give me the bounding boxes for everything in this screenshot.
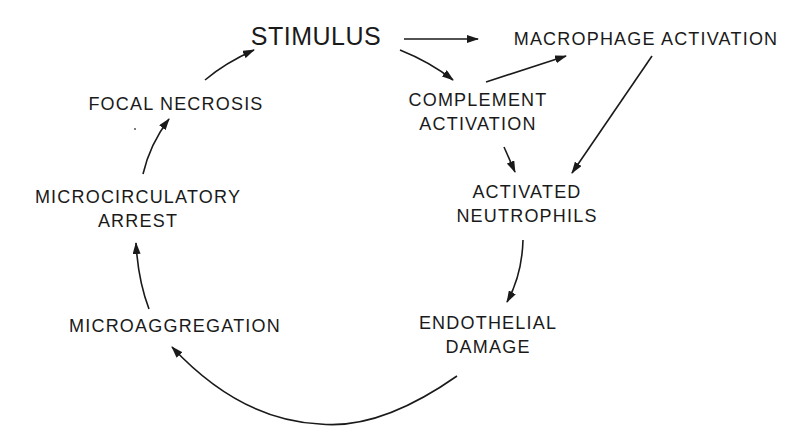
arrow-macrophage-to-neutrophils	[572, 56, 652, 173]
node-endothelial-damage: ENDOTHELIAL DAMAGE	[419, 311, 557, 359]
node-microaggregation-label: MICROAGGREGATION	[69, 314, 281, 338]
node-stimulus-label: STIMULUS	[251, 24, 381, 48]
node-macrophage-activation: MACROPHAGE ACTIVATION	[514, 27, 779, 51]
node-neutrophils-label-line2: NEUTROPHILS	[456, 204, 597, 228]
node-necrosis-label: FOCAL NECROSIS	[88, 92, 263, 116]
node-stimulus: STIMULUS	[251, 24, 381, 48]
arrow-arrest-to-necrosis	[143, 119, 169, 174]
node-microcirculatory-label-line2: ARREST	[35, 209, 241, 233]
node-endothelial-label-line2: DAMAGE	[419, 335, 557, 359]
arrow-complement-to-macrophage	[486, 56, 566, 82]
node-focal-necrosis: FOCAL NECROSIS	[88, 92, 263, 116]
arrow-stimulus-to-complement	[400, 50, 453, 80]
node-microaggregation: MICROAGGREGATION	[69, 314, 281, 338]
arrow-neutrophils-to-endothelial	[507, 240, 523, 302]
node-complement-label-line2: ACTIVATION	[408, 112, 547, 136]
node-activated-neutrophils: ACTIVATED NEUTROPHILS	[456, 180, 597, 228]
node-microcirculatory-arrest: MICROCIRCULATORY ARREST	[35, 185, 241, 233]
arrow-endothelial-to-microaggregation	[172, 347, 457, 425]
stray-mark	[134, 128, 136, 130]
node-neutrophils-label-line1: ACTIVATED	[456, 180, 597, 204]
node-macrophage-label: MACROPHAGE ACTIVATION	[514, 27, 779, 51]
arrow-microaggregation-to-arrest	[136, 243, 149, 309]
node-complement-label-line1: COMPLEMENT	[408, 88, 547, 112]
node-microcirculatory-label-line1: MICROCIRCULATORY	[35, 185, 241, 209]
arrow-necrosis-to-stimulus	[205, 50, 254, 80]
pathophysiology-cycle-diagram: STIMULUS MACROPHAGE ACTIVATION COMPLEMEN…	[0, 0, 810, 446]
node-endothelial-label-line1: ENDOTHELIAL	[419, 311, 557, 335]
arrow-complement-to-neutrophils	[504, 147, 515, 172]
node-complement-activation: COMPLEMENT ACTIVATION	[408, 88, 547, 136]
